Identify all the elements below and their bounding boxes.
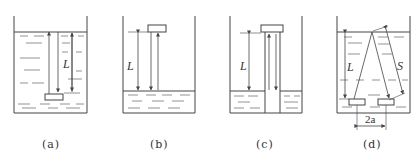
panel-a [14, 16, 87, 113]
caption-d: (d) [363, 138, 382, 151]
label-L-d: L [346, 60, 354, 74]
transducer-c [261, 25, 283, 32]
label-L-a: L [62, 57, 70, 71]
label-S-d: S [397, 59, 403, 73]
panel-b [123, 16, 195, 113]
label-2a-d: 2a [365, 113, 376, 125]
receiver-d [378, 99, 394, 105]
label-L-c: L [239, 59, 247, 73]
caption-c: (c) [256, 138, 274, 151]
transducer-b [148, 25, 166, 32]
caption-b: (b) [150, 138, 169, 151]
label-L-b: L [126, 59, 134, 73]
caption-a: (a) [42, 138, 60, 151]
transmitter-d [349, 99, 365, 105]
level-measurement-diagram: L L L L S 2a [0, 0, 420, 163]
transducer-a [45, 94, 63, 100]
